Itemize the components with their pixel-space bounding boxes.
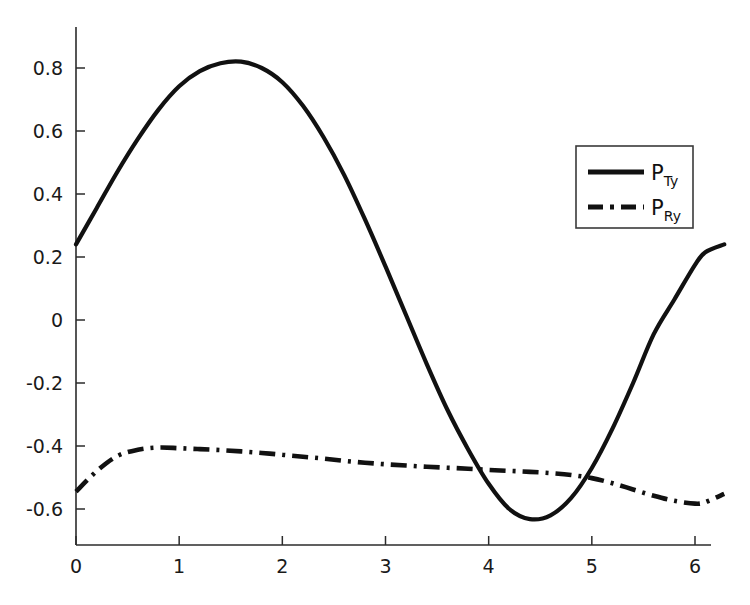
y-tick-label: -0.6 (26, 498, 63, 520)
x-tick-label: 5 (586, 555, 598, 577)
y-tick-label: 0 (51, 309, 63, 331)
series-group (76, 61, 724, 519)
legend[interactable]: PTy PRy (576, 146, 693, 228)
series-line-p-ty (76, 61, 724, 519)
series-line-p-ry (76, 448, 724, 504)
x-tick-label: 1 (173, 555, 185, 577)
y-tick-label: -0.2 (26, 372, 63, 394)
x-axis-ticks: 0123456 (70, 536, 701, 577)
x-tick-label: 3 (379, 555, 391, 577)
x-tick-label: 4 (483, 555, 495, 577)
x-tick-label: 6 (689, 555, 701, 577)
line-chart: 0.80.60.40.20-0.2-0.4-0.6 0123456 PTy PR… (0, 0, 750, 605)
y-tick-label: 0.4 (33, 183, 63, 205)
y-tick-label: -0.4 (26, 435, 63, 457)
y-tick-label: 0.2 (33, 246, 63, 268)
y-tick-label: 0.8 (33, 57, 63, 79)
figure-container: 0.80.60.40.20-0.2-0.4-0.6 0123456 PTy PR… (0, 0, 750, 605)
y-tick-label: 0.6 (33, 120, 63, 142)
x-tick-label: 0 (70, 555, 82, 577)
x-tick-label: 2 (276, 555, 288, 577)
